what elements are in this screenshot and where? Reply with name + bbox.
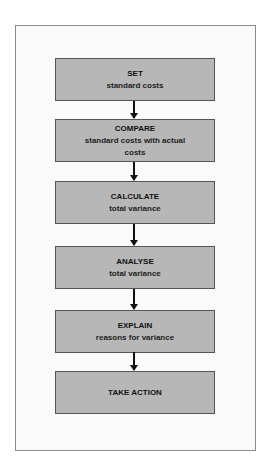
step-title: COMPARE	[115, 123, 155, 135]
step-subtitle: standard costs	[107, 80, 164, 92]
step-title: CALCULATE	[111, 191, 159, 203]
step-subtitle: standard costs with actual costs	[80, 135, 190, 159]
arrow-down-icon	[133, 224, 135, 245]
step-calculate: CALCULATE total variance	[55, 181, 215, 224]
arrow-down-icon	[133, 289, 135, 309]
step-subtitle: total variance	[109, 268, 161, 280]
step-compare: COMPARE standard costs with actual costs	[55, 119, 215, 162]
arrow-down-icon	[133, 352, 135, 370]
arrow-down-icon	[133, 162, 135, 180]
step-explain: EXPLAIN reasons for variance	[55, 310, 215, 353]
arrow-down-icon	[133, 101, 135, 118]
step-subtitle: reasons for variance	[96, 332, 174, 344]
step-analyse: ANALYSE total variance	[55, 246, 215, 289]
step-title: ANALYSE	[116, 256, 154, 268]
step-title: TAKE ACTION	[108, 387, 162, 399]
step-take-action: TAKE ACTION	[55, 371, 215, 414]
step-title: SET	[127, 68, 143, 80]
step-set: SET standard costs	[55, 58, 215, 101]
step-subtitle: total variance	[109, 203, 161, 215]
step-title: EXPLAIN	[118, 320, 153, 332]
